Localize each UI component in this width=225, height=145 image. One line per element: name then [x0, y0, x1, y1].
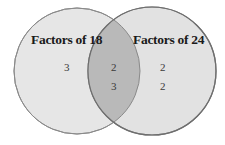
set-label-factors-of-24: Factors of 24 — [133, 32, 205, 47]
right-only-value: 2 — [160, 80, 166, 92]
set-label-factors-of-18: Factors of 18 — [31, 32, 103, 47]
venn-diagram: Factors of 18 Factors of 24 3 2 3 2 2 — [0, 0, 225, 145]
intersection-value: 2 — [111, 61, 117, 73]
left-only-value: 3 — [64, 61, 70, 73]
right-only-value: 2 — [160, 61, 166, 73]
intersection-value: 3 — [111, 80, 117, 92]
